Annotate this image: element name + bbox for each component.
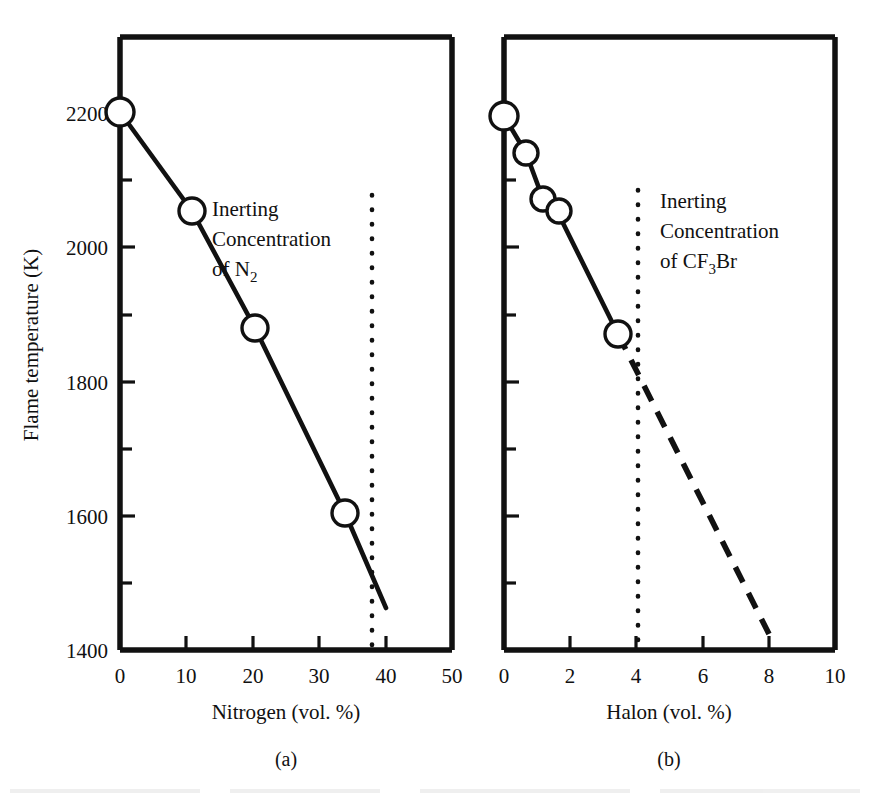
panel-b-caption: (b) (657, 748, 680, 771)
panel-a-y-axis-title: Flame temperature (K) (19, 249, 43, 441)
panel-a-annotation-line1: Inerting (212, 197, 279, 221)
panel-b-x-axis-title: Halon (vol. %) (606, 700, 731, 724)
page-scan-artifact (10, 789, 860, 793)
panel-b-annotation-subscript: 3 (708, 261, 716, 277)
panel-b-data-point (514, 141, 538, 165)
panel-a-ytick-1600: 1600 (66, 505, 108, 529)
panel-b-extrapolated-line (618, 334, 769, 634)
panel-b: 0 2 4 6 8 10 Halon (vol. %) Inerting Con… (490, 37, 846, 771)
panel-b-xtick-8: 8 (764, 664, 775, 688)
chart-canvas: 2200 2000 1800 1600 1400 0 10 20 30 40 5… (0, 0, 877, 797)
panel-a-xtick-40: 40 (376, 664, 397, 688)
panel-a-annotation-line2: Concentration (212, 227, 331, 251)
panel-a-ytick-1800: 1800 (66, 371, 108, 395)
panel-b-data-point (490, 102, 518, 130)
panel-a-data-point (179, 198, 205, 224)
panel-a: 2200 2000 1800 1600 1400 0 10 20 30 40 5… (19, 37, 463, 771)
panel-a-xtick-10: 10 (176, 664, 197, 688)
panel-a-annotation: Inerting Concentration of N2 (212, 197, 331, 285)
panel-a-annotation-subscript: 2 (250, 269, 258, 285)
panel-a-xtick-20: 20 (243, 664, 264, 688)
figure-container: 2200 2000 1800 1600 1400 0 10 20 30 40 5… (0, 0, 877, 797)
panel-a-ytick-2200: 2200 (66, 102, 108, 126)
panel-b-xtick-6: 6 (698, 664, 709, 688)
panel-a-xtick-0: 0 (115, 664, 126, 688)
panel-b-xtick-2: 2 (565, 664, 576, 688)
panel-a-x-axis-title: Nitrogen (vol. %) (212, 700, 361, 724)
panel-a-caption: (a) (275, 748, 297, 771)
panel-a-ytick-2000: 2000 (66, 236, 108, 260)
panel-a-ytick-1400: 1400 (66, 639, 108, 663)
panel-a-data-point (242, 315, 268, 341)
panel-a-annotation-line3: of N2 (212, 257, 257, 285)
panel-b-xtick-0: 0 (499, 664, 510, 688)
panel-b-annotation-line3: of CF3Br (660, 249, 737, 277)
panel-a-xtick-50: 50 (442, 664, 463, 688)
panel-b-data-point (605, 321, 631, 347)
panel-b-annotation-line1: Inerting (660, 189, 727, 213)
panel-b-data-point (547, 199, 571, 223)
panel-a-data-point (332, 500, 358, 526)
panel-b-xtick-4: 4 (631, 664, 642, 688)
panel-b-annotation-line3-text: of CF (660, 249, 708, 273)
panel-b-annotation: Inerting Concentration of CF3Br (660, 189, 779, 277)
panel-b-annotation-tail: Br (716, 249, 737, 273)
panel-a-data-line (120, 112, 386, 608)
panel-a-annotation-line3-text: of N (212, 257, 250, 281)
panel-a-data-point (106, 98, 134, 126)
panel-a-xtick-30: 30 (309, 664, 330, 688)
panel-b-annotation-line2: Concentration (660, 219, 779, 243)
panel-b-xtick-10: 10 (825, 664, 846, 688)
